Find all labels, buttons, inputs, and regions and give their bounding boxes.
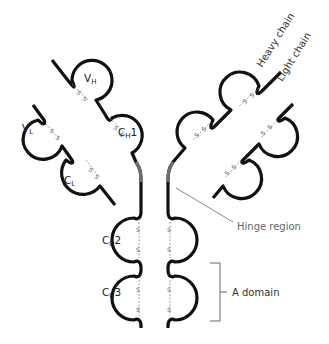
right-fc-chain bbox=[168, 182, 197, 328]
left-light-chain bbox=[23, 105, 115, 205]
svg-text:S: S bbox=[230, 163, 238, 171]
svg-text:S: S bbox=[200, 125, 208, 133]
svg-text:S: S bbox=[266, 123, 274, 131]
svg-text:S: S bbox=[81, 95, 89, 103]
right-heavy-chain bbox=[168, 72, 281, 182]
a-domain-label: A domain bbox=[232, 287, 279, 298]
antibody-svg: S S S S S S S S S S S S S S S S bbox=[0, 0, 329, 344]
svg-text:S: S bbox=[193, 131, 201, 139]
svg-text:S: S bbox=[136, 306, 140, 313]
hinge-right bbox=[168, 162, 173, 182]
hinge-left bbox=[136, 162, 141, 182]
svg-text:S: S bbox=[167, 226, 171, 233]
hinge-leader-line bbox=[176, 188, 233, 222]
right-light-chain bbox=[213, 104, 298, 199]
svg-text:S: S bbox=[136, 246, 140, 253]
label-ch3: CH3 bbox=[102, 286, 121, 300]
hinge-region-label: Hinge region bbox=[237, 221, 301, 232]
right-arm bbox=[168, 72, 298, 199]
svg-text:S: S bbox=[223, 169, 231, 177]
svg-text:S: S bbox=[136, 226, 140, 233]
left-arm-disulfides: S S S S S S S S bbox=[46, 84, 126, 181]
svg-text:S: S bbox=[167, 246, 171, 253]
svg-text:S: S bbox=[87, 166, 95, 174]
label-cl: CL bbox=[64, 174, 75, 188]
svg-text:S: S bbox=[93, 173, 101, 181]
antibody-diagram: S S S S S S S S S S S S S S S S bbox=[0, 0, 329, 344]
svg-text:S: S bbox=[75, 89, 83, 97]
svg-text:S: S bbox=[136, 286, 140, 293]
svg-text:S: S bbox=[167, 306, 171, 313]
svg-text:S: S bbox=[167, 286, 171, 293]
right-arm-disulfide-labels: S S S S S S S S bbox=[193, 91, 274, 177]
label-ch1: CH1 bbox=[118, 126, 137, 140]
svg-text:S: S bbox=[248, 91, 256, 99]
a-domain-bracket bbox=[210, 263, 220, 321]
label-vh: VH bbox=[84, 72, 96, 86]
svg-text:S: S bbox=[259, 129, 267, 137]
left-heavy-chain bbox=[52, 60, 142, 182]
